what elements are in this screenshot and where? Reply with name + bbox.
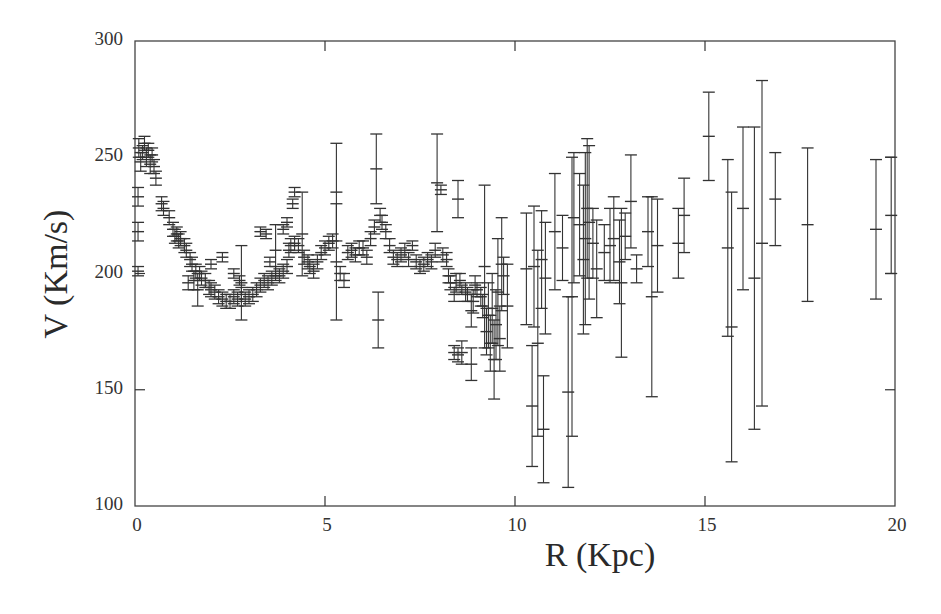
x-tick-label: 20 [877, 514, 917, 536]
data-point [287, 199, 299, 208]
data-point [631, 255, 643, 283]
x-tick-label: 0 [117, 514, 157, 536]
x-axis-label: R (Kpc) [470, 536, 730, 574]
x-tick-label: 10 [497, 514, 537, 536]
data-point [520, 213, 532, 325]
data-point [672, 208, 684, 278]
data-point [769, 153, 781, 246]
data-point [254, 227, 266, 236]
data-point [756, 81, 768, 407]
data-point [132, 222, 144, 241]
data-point [234, 276, 246, 285]
data-point [652, 199, 664, 292]
data-point [205, 260, 217, 269]
y-tick-label: 150 [63, 377, 123, 399]
data-point [216, 253, 228, 262]
data-points [132, 81, 897, 488]
data-point [557, 215, 569, 280]
data-point [678, 178, 690, 252]
axis-ticks [135, 41, 895, 506]
plot-frame [135, 41, 895, 506]
x-tick-label: 15 [687, 514, 727, 536]
data-point [296, 192, 308, 276]
data-point [748, 127, 760, 429]
y-tick-label: 250 [63, 144, 123, 166]
data-point [132, 267, 144, 276]
data-point [330, 204, 342, 320]
data-point [235, 246, 247, 320]
y-tick-label: 100 [63, 493, 123, 515]
data-point [228, 269, 240, 278]
data-point [406, 241, 418, 250]
data-point [625, 155, 637, 248]
data-point [737, 127, 749, 290]
data-point [549, 174, 561, 290]
data-point [614, 220, 626, 304]
data-point [372, 292, 384, 348]
data-point [703, 92, 715, 180]
data-point [538, 376, 550, 483]
data-point [270, 225, 282, 276]
data-point [431, 134, 443, 232]
data-point [370, 134, 382, 204]
data-point [568, 153, 580, 283]
y-axis-label: V (Km/s) [37, 210, 75, 339]
data-point [870, 160, 882, 300]
data-point [452, 181, 464, 218]
data-point [260, 229, 272, 238]
data-point [132, 187, 144, 206]
data-point [802, 148, 814, 301]
data-point [598, 225, 610, 281]
x-tick-label: 5 [307, 514, 347, 536]
data-point [526, 346, 538, 467]
data-point [264, 257, 276, 266]
y-tick-label: 300 [63, 28, 123, 50]
